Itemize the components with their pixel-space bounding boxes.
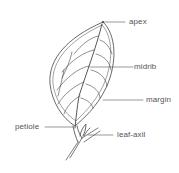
label-margin: margin [146,95,171,104]
label-petiole: petiole [15,122,39,131]
midrib-vein [75,24,102,128]
lateral-veins [57,36,112,114]
leaf-diagram [0,0,179,173]
label-leaf-axil: leaf-axil [117,130,145,139]
label-apex: apex [129,17,147,26]
label-midrib: midrib [134,62,156,71]
stem [66,128,100,160]
leader-lines [45,22,143,135]
apex-dot [102,21,104,23]
leaf-outline-inner [53,25,111,121]
leaf-outline [50,22,114,126]
